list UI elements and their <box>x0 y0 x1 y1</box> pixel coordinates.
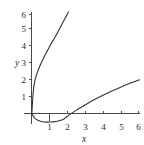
x-tick-label-3: 3 <box>83 122 88 132</box>
x-tick-label-2: 2 <box>65 122 70 132</box>
x-tick-label-1: 1 <box>47 122 52 132</box>
y-tick-label-5: 5 <box>22 24 27 34</box>
y-tick-label-2: 2 <box>22 75 27 85</box>
x-tick-label-5: 5 <box>119 122 124 132</box>
curve-shallow <box>32 80 139 122</box>
curve-steep <box>32 12 69 113</box>
y-axis-title: y <box>14 58 20 68</box>
y-tick-label-4: 4 <box>22 41 27 51</box>
x-tick-label-6: 6 <box>136 122 141 132</box>
x-tick-label-4: 4 <box>101 122 106 132</box>
y-tick-label-6: 6 <box>22 10 27 20</box>
plot-canvas: 6 5 4 3 2 1 1 2 3 4 5 6 y x <box>0 0 144 145</box>
x-axis-title: x <box>81 134 87 144</box>
y-tick-label-1: 1 <box>22 92 27 102</box>
y-tick-label-3: 3 <box>22 58 27 68</box>
graph-figure: 6 5 4 3 2 1 1 2 3 4 5 6 y x <box>0 0 144 145</box>
